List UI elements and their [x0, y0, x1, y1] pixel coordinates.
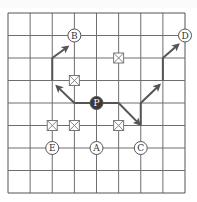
obstacle-box-icon [114, 121, 124, 131]
obstacle-box-icon [114, 53, 124, 63]
node-label: A [92, 143, 100, 153]
node-c: C [134, 142, 147, 155]
path-to-D [97, 45, 179, 126]
obstacle-box-icon [47, 121, 57, 131]
node-label: C [137, 143, 144, 153]
obstacle-box-icon [69, 121, 79, 131]
node-e: E [46, 142, 59, 155]
node-label: B [71, 31, 78, 41]
arrow-icon [57, 86, 75, 103]
grid-path-diagram: PBDEAC [0, 0, 197, 202]
arrow-icon [163, 45, 178, 59]
node-p: P [90, 97, 103, 110]
obstacle-box-icon [69, 76, 79, 86]
node-label: E [49, 143, 56, 153]
node-label: P [93, 98, 99, 108]
node-b: B [68, 29, 81, 42]
arrow-icon [141, 85, 160, 103]
arrow-icon [52, 47, 67, 58]
node-d: D [179, 29, 192, 42]
node-label: D [181, 31, 188, 41]
obstacles [47, 53, 123, 131]
node-a: A [90, 142, 103, 155]
